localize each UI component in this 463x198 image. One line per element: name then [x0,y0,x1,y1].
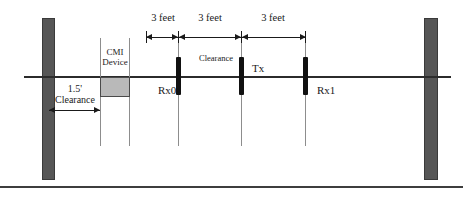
dimension-label-1: 3 feet [147,12,179,24]
wall-right [424,18,438,180]
antenna-spacing-diagram: CMI Device Rx0 Tx Rx1 Clearance 3 feet 3… [0,0,463,198]
cmi-device-label-line1: CMI [100,47,130,57]
arrow-left-clearance-start [49,107,55,113]
antenna-marker-rx1 [303,57,308,95]
arrow-left-segment-3 [242,34,248,40]
node-label-rx1: Rx1 [317,84,335,96]
dimension-line-top [146,37,306,38]
antenna-marker-tx [239,57,244,95]
node-label-rx0: Rx0 [158,84,176,96]
left-clearance-label: 1.5' Clearance [46,84,104,105]
left-clearance-value: 1.5' [46,84,104,95]
dimension-line-left-clearance [49,110,100,111]
arrow-right-segment-1 [172,34,178,40]
dimension-label-3: 3 feet [257,12,289,24]
dimension-label-2: 3 feet [194,12,226,24]
arrow-right-segment-3 [300,34,306,40]
bottom-divider [0,186,463,188]
node-label-tx: Tx [252,62,264,74]
arrow-left-segment-2 [179,34,185,40]
arrow-right-clearance-end [94,107,100,113]
arrow-right-segment-2 [235,34,241,40]
antenna-marker-rx0 [176,57,181,95]
main-axis-line [24,76,451,78]
cmi-device-label: CMI Device [100,47,130,67]
left-clearance-text: Clearance [46,95,104,106]
middle-clearance-label: Clearance [199,54,233,64]
cmi-device-box [100,77,130,97]
arrow-left-segment-1 [146,34,152,40]
cmi-device-label-line2: Device [100,57,130,67]
